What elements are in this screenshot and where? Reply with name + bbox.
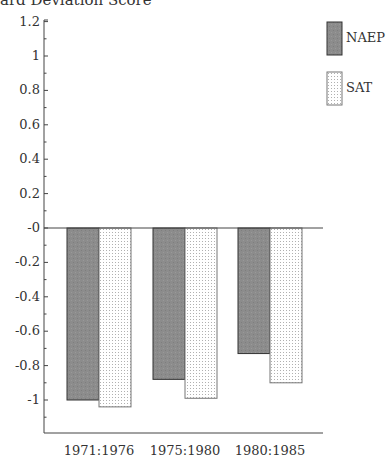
y-tick-label: -0.8 — [15, 358, 40, 373]
legend-label-naep: NAEP — [346, 30, 385, 45]
bar-sat-0 — [99, 228, 131, 407]
bar-chart: 1.210.80.60.40.2-0-0.2-0.4-0.6-0.8-1 197… — [0, 0, 390, 464]
legend-swatch-naep — [327, 22, 342, 55]
x-tick-label: 1980:1985 — [235, 443, 306, 458]
x-tick-label: 1971:1976 — [64, 443, 135, 458]
bars — [44, 228, 323, 407]
bar-naep-1 — [153, 228, 185, 379]
y-tick-label: 0.8 — [19, 82, 40, 97]
y-axis: 1.210.80.60.40.2-0-0.2-0.4-0.6-0.8-1 — [15, 14, 48, 433]
y-tick-label: 0.4 — [19, 151, 40, 166]
legend: NAEPSAT — [327, 22, 385, 105]
bar-sat-1 — [185, 228, 217, 398]
y-tick-label: -0.6 — [15, 323, 40, 338]
bar-naep-2 — [238, 228, 270, 354]
y-tick-label: -0.4 — [15, 289, 40, 304]
legend-label-sat: SAT — [346, 80, 373, 95]
x-tick-label: 1975:1980 — [150, 443, 221, 458]
legend-swatch-sat — [327, 72, 342, 105]
x-axis: 1971:19761975:19801980:1985 — [44, 433, 323, 458]
y-tick-label: 1 — [32, 48, 40, 63]
y-tick-label: 0.2 — [19, 186, 40, 201]
y-tick-label: -0 — [27, 220, 40, 235]
y-tick-label: 0.6 — [19, 117, 40, 132]
y-tick-label: 1.2 — [19, 14, 40, 29]
bar-sat-2 — [270, 228, 302, 383]
bar-naep-0 — [67, 228, 99, 400]
y-tick-label: -0.2 — [15, 254, 40, 269]
y-tick-label: -1 — [27, 392, 40, 407]
